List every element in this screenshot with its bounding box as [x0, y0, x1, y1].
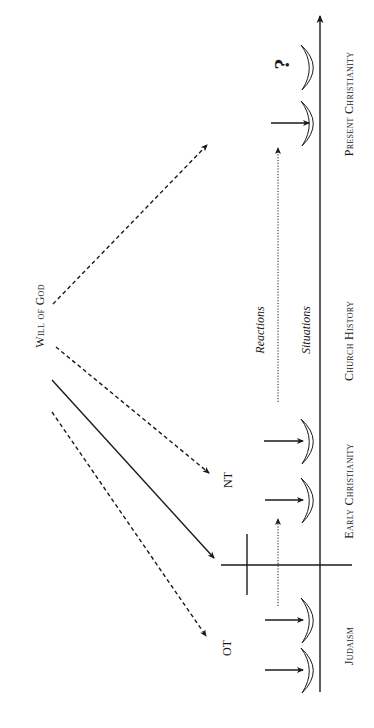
will-of-god-rays [52, 145, 214, 636]
will-of-god-label: Will of God [33, 284, 47, 348]
will-of-god-diagram: Will of God NT OT Reactions Situations J… [0, 0, 374, 728]
nt-label: NT [221, 471, 235, 488]
reactions-label: Reactions [253, 306, 267, 355]
situations-label: Situations [299, 306, 313, 354]
ot-label: OT [220, 639, 234, 656]
period-label-present-christianity: Present Christianity [342, 52, 356, 157]
solid-arrow-to-cross [52, 380, 214, 558]
crescent-present-christianity-2 [301, 45, 313, 90]
period-label-church-history: Church History [342, 301, 356, 381]
dashed-arrow-to-present [53, 145, 207, 304]
community-crescents [264, 45, 313, 693]
unknown-future-marker: ? [269, 59, 294, 70]
cross-symbol [221, 534, 352, 595]
period-label-judaism: Judaism [342, 627, 356, 665]
period-label-early-christianity: Early Christianity [342, 443, 356, 538]
